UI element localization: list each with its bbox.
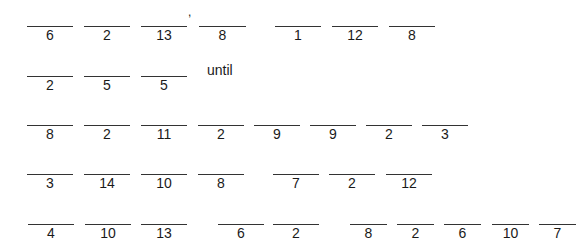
cipher-number: 12	[386, 175, 432, 191]
letter-blank[interactable]: 2	[366, 125, 412, 143]
cipher-number: 11	[141, 126, 187, 142]
cipher-number: 9	[254, 126, 300, 142]
letter-blank[interactable]: 9	[310, 125, 356, 143]
cipher-number: 6	[218, 225, 264, 241]
cipher-number: 2	[397, 225, 434, 241]
cipher-number: 8	[199, 27, 246, 43]
cipher-number: 14	[84, 175, 130, 191]
letter-blank[interactable]: 13	[141, 224, 187, 242]
letter-blank[interactable]: 5	[141, 76, 187, 94]
letter-blank[interactable]: 2	[273, 224, 319, 242]
letter-blank[interactable]: 13	[141, 26, 187, 44]
cipher-number: 3	[422, 126, 468, 142]
cipher-number: 10	[85, 225, 131, 241]
letter-blank[interactable]: 8	[199, 26, 246, 44]
cipher-number: 4	[28, 225, 74, 241]
cipher-number: 2	[27, 77, 73, 93]
letter-blank[interactable]: 6	[444, 224, 481, 242]
comma-punctuation: ,	[188, 6, 191, 18]
cipher-number: 5	[141, 77, 187, 93]
cipher-number: 10	[492, 225, 529, 241]
cipher-number: 2	[84, 27, 130, 43]
cipher-number: 6	[27, 27, 73, 43]
letter-blank[interactable]: 5	[84, 76, 130, 94]
cipher-number: 2	[198, 126, 244, 142]
letter-blank[interactable]: 6	[218, 224, 264, 242]
cipher-number: 8	[350, 225, 387, 241]
letter-blank[interactable]: 10	[492, 224, 529, 242]
cipher-number: 8	[27, 126, 73, 142]
letter-blank[interactable]: 8	[389, 26, 435, 44]
cipher-number: 9	[310, 126, 356, 142]
cipher-number: 6	[444, 225, 481, 241]
cipher-number: 8	[389, 27, 435, 43]
cipher-number: 2	[273, 225, 319, 241]
letter-blank[interactable]: 8	[27, 125, 73, 143]
cipher-number: 5	[84, 77, 130, 93]
cipher-number: 10	[141, 175, 187, 191]
letter-blank[interactable]: 2	[329, 174, 375, 192]
letter-blank[interactable]: 10	[85, 224, 131, 242]
cipher-number: 13	[141, 225, 187, 241]
cipher-number: 8	[198, 175, 244, 191]
cipher-number: 1	[275, 27, 321, 43]
letter-blank[interactable]: 12	[386, 174, 432, 192]
letter-blank[interactable]: 2	[198, 125, 244, 143]
letter-blank[interactable]: 2	[84, 26, 130, 44]
cipher-number: 12	[332, 27, 378, 43]
letter-blank[interactable]: 2	[27, 76, 73, 94]
cipher-number: 7	[539, 225, 576, 241]
cipher-number: 13	[141, 27, 187, 43]
cipher-number: 2	[84, 126, 130, 142]
letter-blank[interactable]: 2	[84, 125, 130, 143]
letter-blank[interactable]: 2	[397, 224, 434, 242]
cipher-number: 2	[366, 126, 412, 142]
letter-blank[interactable]: 7	[273, 174, 319, 192]
letter-blank[interactable]: 4	[28, 224, 74, 242]
letter-blank[interactable]: 6	[27, 26, 73, 44]
cipher-number: 7	[273, 175, 319, 191]
letter-blank[interactable]: 10	[141, 174, 187, 192]
letter-blank[interactable]: 3	[27, 174, 73, 192]
letter-blank[interactable]: 1	[275, 26, 321, 44]
letter-blank[interactable]: 8	[350, 224, 387, 242]
letter-blank[interactable]: 9	[254, 125, 300, 143]
letter-blank[interactable]: 11	[141, 125, 187, 143]
cipher-number: 3	[27, 175, 73, 191]
letter-blank[interactable]: 12	[332, 26, 378, 44]
given-word: until	[207, 62, 233, 78]
letter-blank[interactable]: 3	[422, 125, 468, 143]
letter-blank[interactable]: 14	[84, 174, 130, 192]
cipher-number: 2	[329, 175, 375, 191]
letter-blank[interactable]: 8	[198, 174, 244, 192]
letter-blank[interactable]: 7	[539, 224, 576, 242]
